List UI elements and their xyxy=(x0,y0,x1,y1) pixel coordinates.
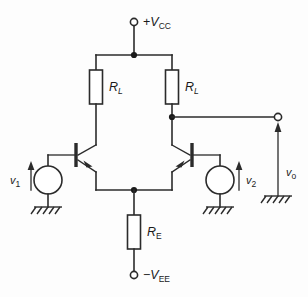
circuit-schematic: +VCC RL RL xyxy=(0,0,308,297)
output-arrow-head xyxy=(275,122,282,132)
ground-output-hatch-2 xyxy=(267,196,272,203)
emitter-resistor-group: RE xyxy=(128,215,163,272)
supply-negative-label: −VEE xyxy=(143,268,170,284)
source-right-subscript: 2 xyxy=(252,179,257,189)
ground-left-group xyxy=(31,207,62,214)
ground-right-hatch-3 xyxy=(215,207,220,214)
output-terminal[interactable] xyxy=(274,113,281,120)
supply-positive-label: +VCC xyxy=(143,15,171,31)
ground-left-hatch-2 xyxy=(37,207,42,214)
load-resistor-left-group: RL xyxy=(90,70,124,145)
supply-positive-terminal[interactable] xyxy=(130,18,137,25)
ground-output-hatch-5 xyxy=(285,196,290,203)
load-resistor-right-label: RL xyxy=(185,80,199,96)
top-rail-junction-dot xyxy=(131,52,137,58)
source-right-arrow-head xyxy=(236,161,243,170)
load-resistor-left-body xyxy=(90,70,103,104)
load-resistor-right-symbol: R xyxy=(185,80,194,94)
load-resistor-right-body xyxy=(166,70,179,104)
load-resistor-left-subscript: L xyxy=(118,86,123,96)
load-resistor-right-subscript: L xyxy=(194,86,199,96)
transistor-left-collector-lead xyxy=(78,145,96,155)
output-branch-group xyxy=(169,113,282,120)
emitter-resistor-symbol: R xyxy=(147,225,156,239)
supply-negative-subscript: EE xyxy=(159,274,171,284)
source-left-group: v1 xyxy=(10,155,62,214)
load-resistor-right-group: RL xyxy=(166,70,200,145)
load-resistor-left-label: RL xyxy=(109,80,123,96)
supply-positive-subscript: CC xyxy=(159,21,171,31)
supply-positive-sign: + xyxy=(143,15,150,29)
ground-output-hatch-4 xyxy=(279,196,284,203)
ground-right-hatch-5 xyxy=(227,207,232,214)
source-left-body[interactable] xyxy=(34,166,62,194)
ground-right-group xyxy=(203,207,234,214)
ground-output-hatch-1 xyxy=(261,196,266,203)
ground-right-hatch-2 xyxy=(209,207,214,214)
emitter-resistor-label: RE xyxy=(147,225,162,241)
supply-positive-group: +VCC xyxy=(130,15,171,55)
source-left-subscript: 1 xyxy=(16,179,21,189)
ground-right-hatch-1 xyxy=(203,207,208,214)
ground-right-hatch-4 xyxy=(221,207,226,214)
ground-output-hatch-3 xyxy=(273,196,278,203)
source-left-arrow-head xyxy=(28,161,35,170)
top-rail-group xyxy=(96,52,172,70)
circuit-figure: +VCC RL RL xyxy=(0,0,308,297)
output-label: vo xyxy=(286,166,297,181)
emitter-node-group xyxy=(96,187,172,215)
supply-negative-terminal[interactable] xyxy=(130,271,137,278)
output-subscript: o xyxy=(292,171,297,181)
load-resistor-left-symbol: R xyxy=(109,80,118,94)
emitter-resistor-subscript: E xyxy=(156,231,162,241)
source-right-label: v2 xyxy=(246,174,257,189)
emitter-resistor-body xyxy=(128,215,141,249)
transistor-right-collector-lead xyxy=(172,145,190,155)
ground-left-hatch-4 xyxy=(49,207,54,214)
output-reference-group: vo xyxy=(261,122,297,203)
source-right-group: v2 xyxy=(203,155,257,214)
source-left-label: v1 xyxy=(10,174,21,189)
ground-output-group xyxy=(261,196,292,203)
ground-left-hatch-3 xyxy=(43,207,48,214)
ground-left-hatch-5 xyxy=(55,207,60,214)
source-right-body[interactable] xyxy=(206,166,234,194)
ground-left-hatch-1 xyxy=(31,207,36,214)
supply-negative-sign: − xyxy=(143,268,150,282)
supply-negative-group: −VEE xyxy=(130,268,170,284)
